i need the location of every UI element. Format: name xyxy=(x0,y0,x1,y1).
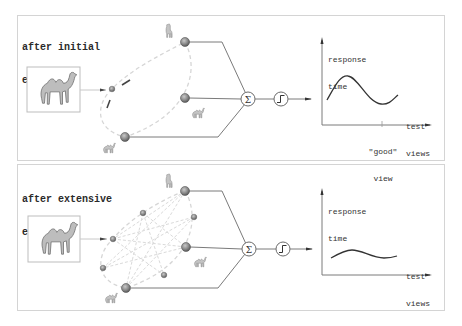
sigma-icon: Σ xyxy=(245,95,251,105)
ylabel-response-time: response time xyxy=(328,189,366,252)
big-node xyxy=(122,284,131,293)
camel-view-icon xyxy=(106,293,118,303)
big-node xyxy=(182,243,191,252)
arrow-icon xyxy=(100,89,106,92)
sigma-icon: Σ xyxy=(246,245,252,255)
camel-view-icon xyxy=(166,24,172,38)
arrow-icon xyxy=(321,37,324,44)
small-node xyxy=(191,214,197,220)
camel-view-icon xyxy=(193,108,205,118)
ylabel-response-time: response time xyxy=(328,37,366,100)
xlabel-line-1: test xyxy=(406,272,430,281)
lateral-connections xyxy=(103,191,194,288)
ylabel-line-1: response xyxy=(328,55,366,64)
xlabel-test-views: test views xyxy=(406,254,430,317)
connection-line xyxy=(189,98,241,99)
connection-line xyxy=(130,104,245,137)
arrow-icon xyxy=(321,188,324,195)
tick-label-line-1: "good" xyxy=(368,147,398,156)
connection-line xyxy=(189,42,246,94)
arrow-icon xyxy=(100,238,107,241)
small-node xyxy=(100,265,106,271)
camel-view-icon xyxy=(104,143,116,153)
small-node xyxy=(161,272,167,278)
small-node xyxy=(140,210,146,216)
connection-line xyxy=(131,254,245,288)
arrow-icon xyxy=(107,100,110,108)
xlabel-line-2: views xyxy=(406,299,430,308)
arrow-icon xyxy=(305,98,312,101)
tick-label-line-2: view xyxy=(368,174,398,183)
arrow-icon xyxy=(306,248,313,251)
ylabel-line-2: time xyxy=(328,82,366,91)
connection-line xyxy=(190,247,242,249)
xlabel-line-1: test xyxy=(406,122,430,131)
small-node xyxy=(109,86,115,92)
xlabel-test-views: test views xyxy=(406,104,430,167)
ylabel-line-2: time xyxy=(328,234,366,243)
big-node xyxy=(181,94,190,103)
camel-view-icon xyxy=(195,257,207,267)
connection-line xyxy=(189,191,246,244)
arrow-icon xyxy=(122,80,130,85)
big-node xyxy=(181,187,190,196)
xlabel-line-2: views xyxy=(406,149,430,158)
big-node xyxy=(181,38,190,47)
small-node xyxy=(110,236,116,242)
camel-view-icon xyxy=(166,174,172,188)
ylabel-line-1: response xyxy=(328,207,366,216)
good-view-label: "good" view xyxy=(368,129,398,192)
big-node xyxy=(121,133,130,142)
network-extensive: Σ xyxy=(28,174,432,303)
